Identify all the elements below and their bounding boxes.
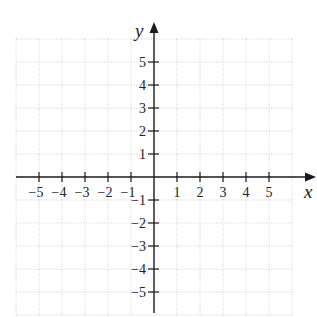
y-tick-label: −5: [131, 285, 146, 300]
y-axis-arrow-icon: [150, 22, 159, 33]
x-tick-label: 3: [220, 185, 227, 200]
x-tick-label: −2: [98, 185, 113, 200]
y-tick-label: 2: [139, 124, 146, 139]
x-tick-label: 5: [266, 185, 273, 200]
x-tick-label: 2: [197, 185, 204, 200]
x-tick-label: −3: [75, 185, 90, 200]
y-tick-label: −2: [131, 216, 146, 231]
x-tick-label: 1: [174, 185, 181, 200]
y-tick-label: 1: [139, 147, 146, 162]
y-tick-label: 4: [139, 78, 146, 93]
x-axis-label: x: [303, 181, 313, 202]
y-tick-label: 5: [139, 55, 146, 70]
y-tick-label: −4: [131, 262, 146, 277]
y-tick-label: −3: [131, 239, 146, 254]
coordinate-plane: x −5−4−3−2−112345 y 54321−1−2−3−4−5: [0, 0, 317, 317]
y-axis: y 54321−1−2−3−4−5: [131, 20, 159, 313]
y-axis-label: y: [133, 20, 144, 41]
y-tick-label: 3: [139, 101, 146, 116]
x-tick-label: −5: [29, 185, 44, 200]
x-tick-label: −4: [52, 185, 67, 200]
x-axis: x −5−4−3−2−112345: [16, 172, 316, 202]
y-tick-label: −1: [131, 193, 146, 208]
x-tick-label: 4: [243, 185, 250, 200]
x-axis-ticks: −5−4−3−2−112345: [29, 172, 273, 200]
